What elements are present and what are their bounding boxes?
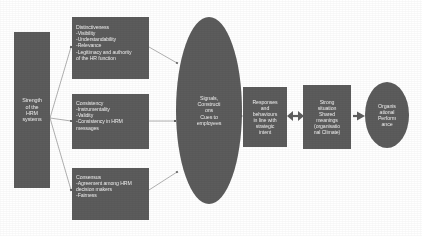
connector-consensus-signals [149, 172, 177, 190]
node-consensus: Consensus -Agreement among HRM decision … [72, 168, 149, 220]
node-label: Strength of the HRM systems [14, 97, 50, 123]
node-label: Strong situation Shared meanings (organi… [303, 99, 351, 136]
connector-distinctiveness-signals [149, 47, 177, 63]
connector-strength-consistency [50, 118, 71, 121]
node-distinctiveness: Distinctiveness -Visibility -Understanda… [72, 17, 149, 79]
node-organisational-performance: Organis ational Perform ance [365, 82, 409, 148]
connector-responses-strong-situation [287, 111, 304, 121]
node-consistency: Consistency -Instrumentality -Validity -… [72, 94, 149, 149]
node-strong-situation: Strong situation Shared meanings (organi… [303, 85, 351, 149]
node-label: Consistency -Instrumentality -Validity -… [72, 100, 149, 131]
node-label: Consensus -Agreement among HRM decision … [72, 174, 149, 199]
connector-strength-distinctiveness [50, 47, 71, 118]
connector-strong-situation-performance [353, 112, 365, 121]
diagram-canvas: Strength of the HRM systems Distinctiven… [0, 0, 422, 236]
node-signals-constructions-cues: Signals, Constructi ons Cues to employee… [176, 17, 242, 204]
node-label: Organis ational Perform ance [365, 103, 409, 128]
node-label: Signals, Constructi ons Cues to employee… [176, 95, 242, 126]
node-label: Responses and behaviours in line with st… [243, 99, 287, 136]
node-label: Distinctiveness -Visibility -Understanda… [72, 24, 149, 61]
connector-strength-consensus [50, 118, 71, 190]
node-responses-and-behaviours: Responses and behaviours in line with st… [243, 87, 287, 147]
node-strength-of-hrm-systems: Strength of the HRM systems [14, 32, 50, 188]
